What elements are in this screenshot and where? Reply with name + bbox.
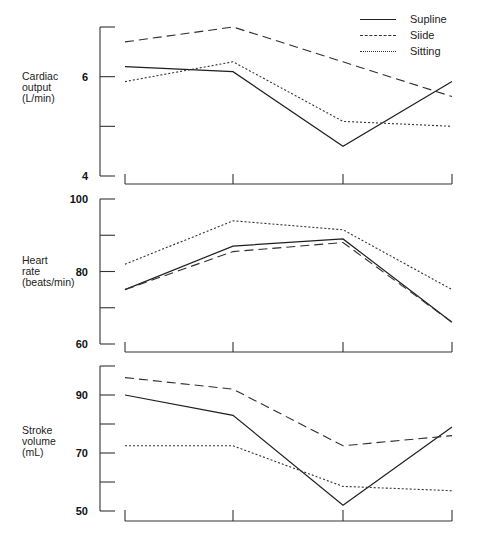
- series-line-supline: [125, 67, 452, 147]
- series-line-sitting: [125, 62, 452, 127]
- series-line-sitting: [125, 446, 452, 491]
- series-line-siide: [125, 378, 452, 446]
- chart-figure: Cardiac output (L/min) Heart rate (beats…: [0, 0, 478, 537]
- series-line-supline: [125, 239, 452, 322]
- plot-area: [0, 0, 478, 537]
- series-line-siide: [125, 243, 452, 323]
- series-line-siide: [125, 27, 452, 97]
- series-line-sitting: [125, 221, 452, 290]
